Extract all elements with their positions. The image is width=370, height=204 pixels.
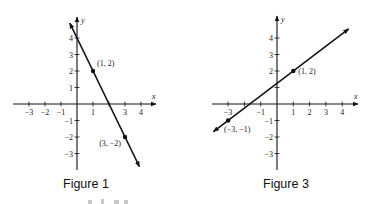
x-axis-label: x — [353, 92, 358, 101]
figure-3-plot: xy−3−11234432−1−2−3(1, 2)(−3, −1) — [212, 15, 358, 170]
y-tick-label: −3 — [264, 150, 273, 159]
data-point — [291, 69, 295, 73]
y-tick-label: −1 — [264, 117, 273, 126]
y-tick-label: −2 — [264, 133, 273, 142]
y-tick-label: 2 — [269, 67, 273, 76]
figure-3-caption: Figure 3 — [263, 177, 309, 191]
x-axis-label: x — [151, 92, 156, 101]
x-tick-label: 1 — [91, 108, 95, 117]
x-tick-label: 3 — [324, 108, 328, 117]
cropped-text-fragments — [88, 199, 128, 204]
data-point — [123, 135, 127, 139]
data-line — [213, 29, 348, 132]
figure-1-plot: xy−3−2−11344321−1−2−3(1, 2)(3, −2) — [13, 16, 156, 170]
point-label: (3, −2) — [99, 139, 121, 148]
x-tick-label: −3 — [25, 108, 34, 117]
point-label: (1, 2) — [97, 59, 115, 68]
x-tick-label: 1 — [291, 108, 295, 117]
y-tick-label: 3 — [69, 51, 73, 60]
x-tick-label: −3 — [224, 108, 233, 117]
y-axis-label: y — [280, 15, 285, 24]
figures-canvas: xy−3−2−11344321−1−2−3(1, 2)(3, −2) xy−3−… — [0, 0, 370, 204]
x-tick-label: 4 — [340, 108, 344, 117]
point-label: (−3, −1) — [224, 125, 251, 134]
y-tick-label: −3 — [64, 150, 73, 159]
y-axis-label: y — [80, 16, 85, 25]
data-point — [91, 69, 95, 73]
y-tick-label: 4 — [69, 34, 73, 43]
y-tick-label: 3 — [269, 51, 273, 60]
y-tick-label: 4 — [269, 34, 273, 43]
figure-1-caption: Figure 1 — [63, 177, 109, 191]
x-tick-label: 3 — [123, 108, 127, 117]
point-label: (1, 2) — [298, 67, 316, 76]
x-tick-label: −2 — [41, 108, 50, 117]
y-tick-label: 1 — [69, 84, 73, 93]
data-point — [226, 118, 230, 122]
x-tick-label: 2 — [308, 108, 312, 117]
y-tick-label: 2 — [69, 67, 73, 76]
y-tick-label: −1 — [64, 117, 73, 126]
x-tick-label: 4 — [139, 108, 143, 117]
y-tick-label: −2 — [64, 133, 73, 142]
